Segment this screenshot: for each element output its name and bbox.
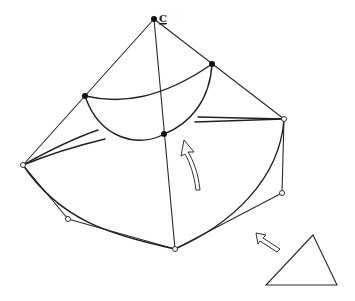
surface-curves bbox=[23, 64, 284, 249]
curved-arrow-icon bbox=[181, 140, 200, 190]
curve-bottom-left bbox=[23, 165, 175, 249]
point-upper-left bbox=[82, 93, 88, 99]
edge-bl-bottom bbox=[68, 219, 175, 249]
edge-apex-right bbox=[154, 19, 284, 119]
point-bottom-left-ctrl bbox=[66, 217, 71, 222]
control-points bbox=[21, 16, 287, 252]
curve-bottom-right bbox=[175, 119, 284, 249]
apex-label: C bbox=[159, 13, 167, 24]
curve-left-wing-1 bbox=[23, 130, 98, 165]
point-left bbox=[21, 163, 26, 168]
point-bottom-right-ctrl bbox=[280, 191, 285, 196]
curve-right-wing-2 bbox=[195, 119, 284, 122]
straight-arrow-icon bbox=[256, 233, 280, 252]
domain-triangle bbox=[266, 235, 337, 285]
curve-upper bbox=[85, 64, 212, 99]
point-apex bbox=[151, 16, 157, 22]
control-net bbox=[23, 19, 284, 249]
point-right bbox=[282, 117, 287, 122]
point-center bbox=[161, 131, 167, 137]
point-upper-right bbox=[209, 61, 215, 67]
surface-patch-diagram: C bbox=[0, 0, 355, 301]
curve-right-wing-1 bbox=[198, 117, 284, 119]
point-bottom bbox=[173, 247, 178, 252]
